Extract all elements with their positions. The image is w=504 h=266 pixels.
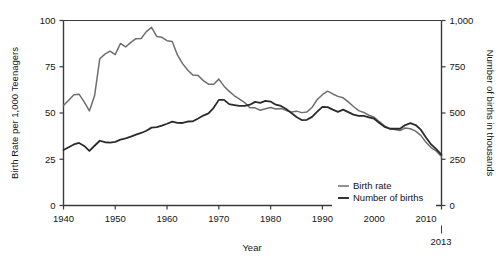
left-tick-label: 50 — [45, 107, 56, 118]
x-tick-label: 1960 — [156, 213, 177, 224]
legend-label-number-of-births: Number of births — [353, 192, 423, 203]
right-tick-label: 750 — [450, 61, 466, 72]
right-tick-label: 1,000 — [450, 15, 474, 26]
chart-figure: 0255075100 02505007501,000 1940195019601… — [0, 0, 504, 266]
birth-rate-line-chart: 0255075100 02505007501,000 1940195019601… — [0, 0, 504, 266]
legend-label-birth-rate: Birth rate — [353, 180, 392, 191]
chart-background — [0, 0, 504, 266]
x-tick-label: 1950 — [105, 213, 126, 224]
left-axis-title: Birth Rate per 1,000 Teenagers — [9, 47, 20, 179]
x-tick-label: 1970 — [208, 213, 229, 224]
left-tick-label: 100 — [40, 15, 56, 26]
x-tick-label: 1940 — [53, 213, 74, 224]
left-tick-label: 75 — [45, 61, 56, 72]
x-tick-label: 1990 — [312, 213, 333, 224]
left-tick-label: 25 — [45, 154, 56, 165]
right-tick-label: 500 — [450, 107, 466, 118]
left-tick-label: 0 — [50, 200, 55, 211]
right-axis-title: Number of births in thousands — [485, 50, 496, 177]
chart-legend: Birth rateNumber of births — [332, 180, 436, 210]
right-tick-label: 250 — [450, 154, 466, 165]
x-tick-label: 2010 — [415, 213, 436, 224]
x-tick-label: 2000 — [364, 213, 385, 224]
x-axis-title: Year — [242, 242, 261, 253]
right-tick-label: 0 — [450, 200, 455, 211]
x-tick-label: 1980 — [260, 213, 281, 224]
end-year-annotation: 2013 — [430, 236, 451, 247]
